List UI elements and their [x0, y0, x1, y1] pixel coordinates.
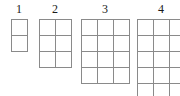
grid-cell: [12, 36, 28, 52]
grid-cell: [56, 20, 72, 36]
grid-cell: [170, 52, 180, 68]
grid-cell: [154, 36, 170, 52]
grid-cell: [40, 20, 56, 36]
grid-cell: [114, 20, 130, 36]
grid-cell: [82, 68, 98, 84]
grid-cell: [82, 20, 98, 36]
figure-canvas: 1234: [0, 0, 180, 96]
grid-cell: [98, 68, 114, 84]
grid-cell: [114, 52, 130, 68]
figure-label-4: 4: [137, 2, 180, 16]
grid-cell: [98, 36, 114, 52]
grid-cell: [56, 36, 72, 52]
grid-cell: [98, 52, 114, 68]
grid-cell: [56, 52, 72, 68]
figure-label-3: 3: [81, 2, 129, 16]
grid-cell: [114, 68, 130, 84]
grid-cell: [170, 84, 180, 96]
figure-grid-4: [137, 19, 180, 96]
grid-cell: [98, 20, 114, 36]
grid-cell: [138, 20, 154, 36]
figure-label-2: 2: [39, 2, 71, 16]
figure-grid-2: [39, 19, 72, 68]
grid-cell: [40, 52, 56, 68]
grid-cell: [138, 36, 154, 52]
grid-cell: [170, 20, 180, 36]
grid-cell: [154, 68, 170, 84]
grid-cell: [114, 36, 130, 52]
grid-cell: [154, 52, 170, 68]
grid-cell: [170, 36, 180, 52]
figure-grid-1: [11, 19, 28, 52]
grid-cell: [40, 36, 56, 52]
figure-label-1: 1: [11, 2, 27, 16]
grid-cell: [82, 52, 98, 68]
grid-cell: [12, 20, 28, 36]
grid-cell: [154, 20, 170, 36]
grid-cell: [138, 84, 154, 96]
grid-cell: [170, 68, 180, 84]
grid-cell: [138, 52, 154, 68]
figure-grid-3: [81, 19, 130, 84]
grid-cell: [154, 84, 170, 96]
grid-cell: [82, 36, 98, 52]
grid-cell: [138, 68, 154, 84]
